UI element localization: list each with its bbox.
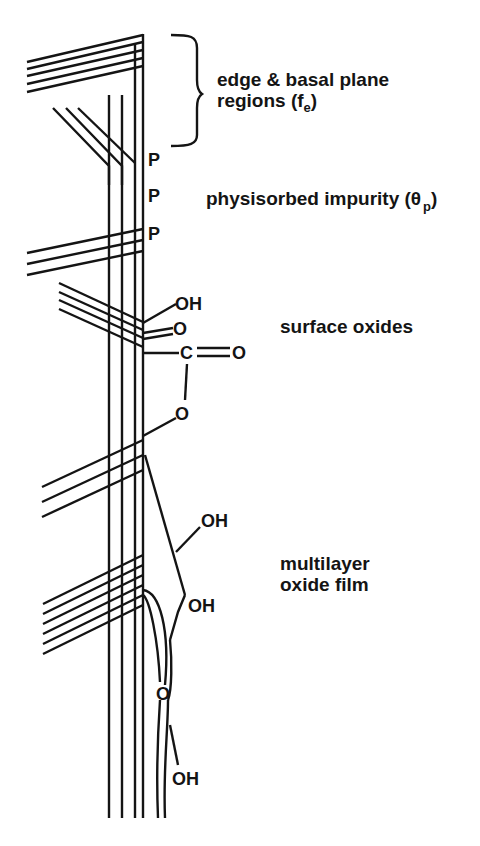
atom-oh2: OH xyxy=(201,511,228,531)
atom-oh3: OH xyxy=(188,596,215,616)
label-surface-oxides: surface oxides xyxy=(280,316,413,337)
label-physisorbed: physisorbed impurity (θp) xyxy=(206,188,437,214)
label-edge-line1: edge & basal plane xyxy=(217,69,389,90)
atom-p2: P xyxy=(148,186,160,206)
label-multilayer-line1: multilayer xyxy=(280,553,370,574)
graphite-lines xyxy=(27,34,230,818)
atom-p3: P xyxy=(148,224,160,244)
atom-oh4: OH xyxy=(172,769,199,789)
atom-o4: O xyxy=(156,684,170,704)
atom-o1: O xyxy=(173,319,187,339)
atom-o2: O xyxy=(232,343,246,363)
label-edge-line2: regions (fe) xyxy=(217,90,317,115)
atom-o3: O xyxy=(175,404,189,424)
carbon-surface-diagram: P P P OH O C O O OH OH O OH edge & basal… xyxy=(0,0,480,846)
atom-p1: P xyxy=(148,150,160,170)
atom-c: C xyxy=(180,343,193,363)
atom-oh1: OH xyxy=(175,294,202,314)
label-multilayer-line2: oxide film xyxy=(280,574,369,595)
